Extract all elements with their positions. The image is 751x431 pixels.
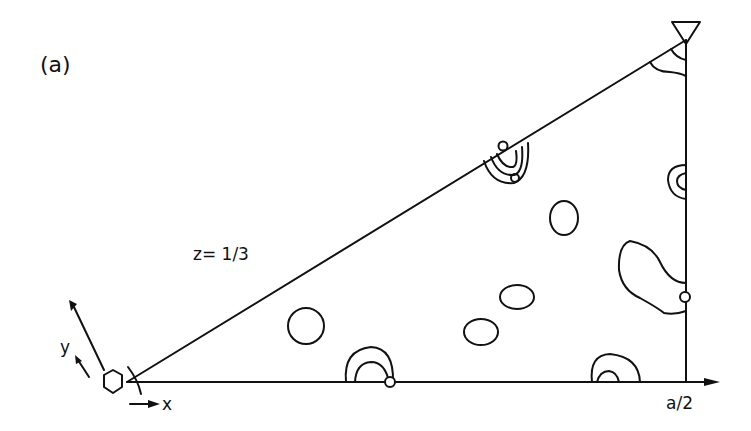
hexagon-origin-symbol [104,370,122,393]
base-contours-right [592,354,640,382]
a-axis-arrow [686,378,720,386]
atom-position-marker [499,142,508,151]
x-direction-arrow [130,400,160,408]
asymmetric-unit-triangle [127,40,700,382]
hypotenuse-contours [484,142,528,184]
atom-position-marker [385,377,395,387]
y-axis-arrow [69,300,104,370]
x-axis-label: x [162,394,172,414]
a-half-label: a/2 [666,393,693,413]
hypotenuse-edge [127,40,686,382]
vertical-edge-contours [619,165,690,314]
atom-position-marker [680,292,690,302]
corner-contours [650,49,686,76]
density-contours [288,201,578,345]
panel-label: (a) [40,52,71,77]
contour-map-diagram: (a) a/2 y x z= 1/3 [0,0,751,431]
y-direction-arrow [75,355,89,377]
section-label: z= 1/3 [193,244,249,264]
y-axis-label: y [60,337,70,357]
